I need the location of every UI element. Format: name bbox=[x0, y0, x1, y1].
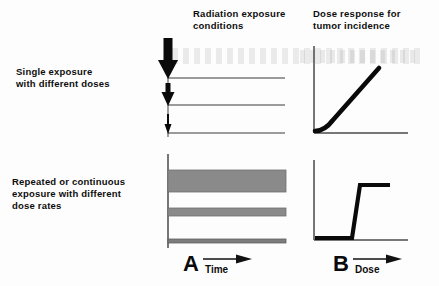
panel-single-exposure-arrows bbox=[150, 38, 290, 142]
row-label-single-line2: with different doses bbox=[16, 78, 161, 90]
exposure-band-low-dose-rate bbox=[168, 239, 286, 243]
dose-response-protracted-svg bbox=[300, 152, 430, 250]
dose-response-curve-threshold bbox=[315, 185, 390, 238]
panel-letter-a: A bbox=[183, 253, 199, 275]
exposure-band-high-dose-rate bbox=[168, 170, 286, 192]
axis-label-time: Time bbox=[205, 264, 228, 275]
panel-dose-response-threshold bbox=[300, 152, 430, 250]
panel-protracted-exposure-bars bbox=[150, 152, 290, 250]
panel-letter-b: B bbox=[333, 253, 349, 275]
axis-label-dose: Dose bbox=[355, 264, 379, 275]
column-heading-response-line1: Dose response for bbox=[313, 8, 433, 20]
protracted-exposure-svg bbox=[150, 152, 290, 250]
single-exposure-svg bbox=[150, 38, 290, 142]
panel-dose-response-linear-quadratic bbox=[300, 38, 430, 142]
row-label-single-line1: Single exposure bbox=[16, 66, 161, 78]
column-heading-exposure-conditions: Radiation exposure conditions bbox=[193, 8, 313, 31]
dose-arrow-high bbox=[158, 38, 178, 79]
row-label-repeated-line1: Repeated or continuous bbox=[12, 176, 164, 188]
radiation-dose-response-figure: Radiation exposure conditions Dose respo… bbox=[0, 0, 439, 286]
column-heading-exposure-line1: Radiation exposure bbox=[193, 8, 313, 20]
time-axis-arrow-icon bbox=[203, 252, 255, 264]
exposure-band-medium-dose-rate bbox=[168, 208, 286, 216]
column-heading-exposure-line2: conditions bbox=[193, 20, 313, 32]
row-label-single-exposure: Single exposure with different doses bbox=[16, 66, 161, 90]
dose-response-curve-acute bbox=[315, 68, 379, 131]
column-heading-dose-response: Dose response for tumor incidence bbox=[313, 8, 433, 31]
dose-arrow-low bbox=[165, 114, 172, 134]
column-heading-response-line2: tumor incidence bbox=[313, 20, 433, 32]
dose-arrow-medium bbox=[162, 83, 175, 106]
row-label-repeated-line2: exposure with different bbox=[12, 188, 164, 200]
dose-response-acute-svg bbox=[300, 38, 430, 142]
dose-axis-arrow-icon bbox=[353, 252, 405, 264]
row-label-repeated-line3: dose rates bbox=[12, 200, 164, 212]
row-label-repeated-exposure: Repeated or continuous exposure with dif… bbox=[12, 176, 164, 212]
